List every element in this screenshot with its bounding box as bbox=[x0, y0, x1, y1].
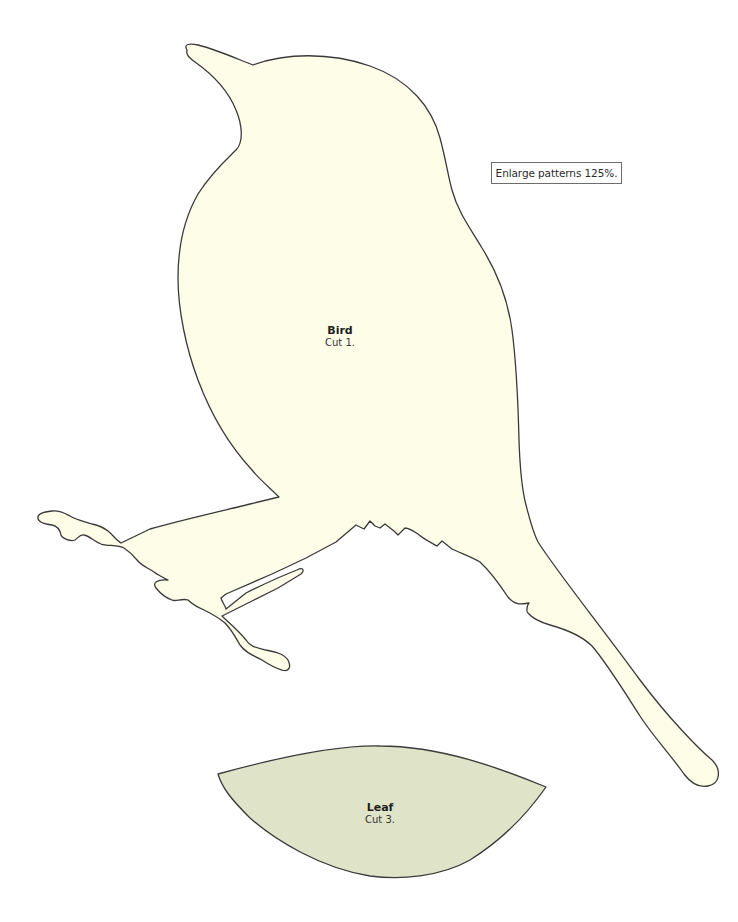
bird-cut-instruction: Cut 1. bbox=[300, 337, 380, 349]
bird-piece-name: Bird bbox=[300, 325, 380, 337]
enlarge-instruction-note: Enlarge patterns 125%. bbox=[491, 162, 622, 184]
bird-pattern-shape bbox=[38, 44, 719, 786]
pattern-sheet bbox=[0, 0, 738, 922]
leaf-cut-instruction: Cut 3. bbox=[340, 814, 420, 826]
leaf-piece-name: Leaf bbox=[340, 802, 420, 814]
bird-pattern-label: Bird Cut 1. bbox=[300, 325, 380, 349]
leaf-pattern-label: Leaf Cut 3. bbox=[340, 802, 420, 826]
